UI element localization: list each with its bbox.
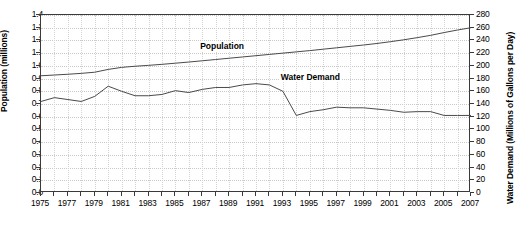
x-axis-tick-label: 1981	[112, 198, 130, 208]
left-axis-title: Population (millions)	[0, 30, 9, 112]
x-axis-tick-label: 2007	[461, 198, 479, 208]
x-axis-tick-label: 1989	[219, 198, 237, 208]
x-axis-tick-label: 1983	[138, 198, 156, 208]
right-axis-title: Water Demand (Millions of Gallons per Da…	[505, 32, 515, 204]
right-axis-tick-label: 20	[476, 174, 485, 184]
chart-figure: Population (millions) Water Demand (Mill…	[0, 0, 517, 225]
water-demand-line	[41, 84, 471, 116]
right-axis-tick-label: 140	[476, 98, 490, 108]
right-axis-tick-label: 100	[476, 123, 490, 133]
x-axis-tick-label: 1997	[327, 198, 345, 208]
plot-area: Population Water Demand	[40, 14, 470, 192]
x-axis-tick-label: 1985	[165, 198, 183, 208]
right-axis-tick-label: 220	[476, 47, 490, 57]
x-axis-tick-label: 1993	[273, 198, 291, 208]
x-axis-tick-label: 2003	[407, 198, 425, 208]
population-series-label: Population	[199, 41, 245, 51]
right-axis-tick-label: 280	[476, 9, 490, 19]
right-axis-tick-label: 120	[476, 111, 490, 121]
right-axis-tick-label: 80	[476, 136, 485, 146]
right-axis-tick-label: 160	[476, 85, 490, 95]
right-axis-tick-label: 240	[476, 34, 490, 44]
x-axis-tick-label: 1987	[192, 198, 210, 208]
x-axis-tick-label: 1979	[85, 198, 103, 208]
right-axis-tick-label: 200	[476, 60, 490, 70]
right-axis-tick-label: 60	[476, 149, 485, 159]
right-axis-tick-label: 0	[476, 187, 481, 197]
right-axis-tick-label: 180	[476, 73, 490, 83]
x-axis-tick-label: 1977	[58, 198, 76, 208]
x-axis-tick-label: 1991	[246, 198, 264, 208]
x-axis-tick-label: 2001	[380, 198, 398, 208]
x-axis-tick-label: 1995	[300, 198, 318, 208]
x-axis-tick-label: 2005	[434, 198, 452, 208]
water-demand-series-label: Water Demand	[280, 72, 341, 82]
x-axis-tick-label: 1999	[353, 198, 371, 208]
right-axis-tick-label: 260	[476, 22, 490, 32]
series-lines	[41, 15, 471, 193]
population-line	[41, 28, 471, 76]
right-axis-tick-label: 40	[476, 162, 485, 172]
x-axis-tick-label: 1975	[31, 198, 49, 208]
